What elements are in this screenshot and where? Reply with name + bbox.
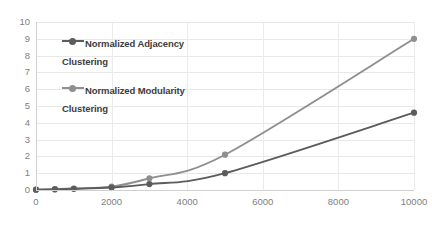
y-tick-label: 9 <box>4 34 30 44</box>
y-tick-label: 2 <box>4 151 30 161</box>
y-tick-label: 6 <box>4 84 30 94</box>
y-tick-label: 3 <box>4 135 30 145</box>
y-tick-label: 7 <box>4 67 30 77</box>
gridline-v <box>414 22 415 190</box>
data-point-marker <box>146 175 152 181</box>
x-tick-label: 0 <box>6 196 66 207</box>
data-point-marker <box>411 110 417 116</box>
x-tick-label: 8000 <box>308 196 368 207</box>
legend-marker-icon-adjacency <box>62 37 84 44</box>
x-tick-label: 10000 <box>384 196 432 207</box>
x-axis-line <box>36 190 414 191</box>
x-tick-label: 6000 <box>233 196 293 207</box>
legend-item-adjacency: Normalized Adjacency Clustering <box>62 33 232 69</box>
chart-legend: Normalized Adjacency Clustering Normaliz… <box>62 33 232 127</box>
y-tick-label: 0 <box>4 185 30 195</box>
x-tick-label: 2000 <box>82 196 142 207</box>
y-tick-label: 4 <box>4 118 30 128</box>
data-point-marker <box>222 152 228 158</box>
legend-marker-icon-modularity <box>62 84 84 91</box>
data-point-marker <box>411 36 417 42</box>
y-tick-label: 8 <box>4 51 30 61</box>
y-tick-label: 5 <box>4 101 30 111</box>
legend-item-modularity: Normalized Modularity Clustering <box>62 80 232 116</box>
y-tick-label: 10 <box>4 17 30 27</box>
data-point-marker <box>222 170 228 176</box>
x-tick-label: 4000 <box>157 196 217 207</box>
y-tick-label: 1 <box>4 168 30 178</box>
y-axis-line <box>36 22 37 191</box>
data-point-marker <box>146 181 152 187</box>
